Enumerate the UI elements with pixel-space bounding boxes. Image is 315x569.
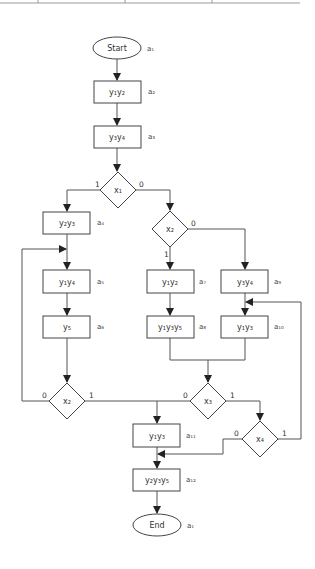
- end-node: End a₁: [133, 514, 194, 536]
- svg-text:0: 0: [191, 219, 196, 228]
- operator-box-a4: y₂y₃ a₄: [43, 212, 104, 234]
- operator-box-a2: y₁y₂ a₂: [94, 81, 155, 103]
- svg-text:a₁₂: a₁₂: [186, 476, 196, 484]
- svg-text:a₇: a₇: [199, 278, 206, 286]
- svg-text:1: 1: [230, 391, 235, 400]
- svg-text:a₁₁: a₁₁: [186, 432, 196, 440]
- operator-box-a11: y₁y₃ a₁₁: [133, 424, 196, 447]
- operator-box-a6: y₅ a₆: [43, 316, 104, 338]
- svg-text:1: 1: [164, 250, 169, 259]
- svg-text:y₂y₃: y₂y₃: [59, 219, 75, 228]
- operator-box-a12: y₂y₃y₅ a₁₂: [133, 469, 196, 491]
- svg-text:0: 0: [183, 391, 188, 400]
- svg-text:a₂: a₂: [148, 88, 155, 96]
- operator-box-a10: y₁y₃ a₁₀: [221, 316, 284, 338]
- operator-box-a9: y₃y₄ a₉: [221, 270, 281, 293]
- svg-text:a₅: a₅: [97, 278, 104, 286]
- svg-text:y₁y₄: y₁y₄: [59, 278, 75, 287]
- svg-text:y₁y₃: y₁y₃: [237, 323, 253, 332]
- svg-text:x₂: x₂: [63, 397, 71, 406]
- svg-text:x₂: x₂: [166, 225, 174, 234]
- svg-text:a₆: a₆: [97, 323, 104, 331]
- svg-text:End: End: [149, 521, 164, 530]
- svg-text:1: 1: [282, 429, 287, 438]
- svg-text:y₂y₃y₅: y₂y₃y₅: [145, 476, 169, 485]
- svg-text:1: 1: [95, 180, 100, 189]
- svg-text:0: 0: [234, 429, 239, 438]
- svg-text:0: 0: [139, 180, 144, 189]
- svg-text:1: 1: [89, 391, 94, 400]
- svg-text:y₅: y₅: [63, 323, 71, 332]
- flowchart-canvas: Start a₁ y₁y₂ a₂ y₃y₄ a₃ x₁ 1 0 y₂y₃ a₄ …: [0, 0, 315, 569]
- condition-x1: x₁ 1 0: [95, 172, 144, 208]
- svg-text:x₁: x₁: [114, 186, 122, 195]
- svg-text:y₃y₄: y₃y₄: [237, 278, 253, 287]
- svg-text:y₃y₄: y₃y₄: [109, 133, 125, 142]
- svg-text:y₁y₃: y₁y₃: [149, 432, 165, 441]
- svg-text:y₁y₂: y₁y₂: [162, 278, 178, 287]
- operator-box-a3: y₃y₄ a₃: [94, 126, 155, 148]
- operator-box-a8: y₁y₃y₅ a₈: [147, 316, 206, 338]
- svg-text:Start: Start: [107, 44, 127, 53]
- svg-text:y₁y₂: y₁y₂: [109, 88, 125, 97]
- svg-text:0: 0: [42, 391, 47, 400]
- svg-text:a₃: a₃: [148, 133, 155, 141]
- operator-box-a5: y₁y₄ a₅: [43, 270, 104, 293]
- svg-text:a₁: a₁: [187, 522, 194, 530]
- operator-box-a7: y₁y₂ a₇: [147, 270, 206, 293]
- table-fragment: [0, 0, 300, 3]
- svg-text:x₃: x₃: [204, 397, 212, 406]
- svg-text:y₁y₃y₅: y₁y₃y₅: [158, 323, 182, 332]
- svg-text:a₁₀: a₁₀: [274, 323, 284, 331]
- svg-text:x₄: x₄: [256, 435, 264, 444]
- start-node: Start a₁: [93, 37, 154, 59]
- condition-x2-right: x₂ 0 1: [152, 211, 196, 259]
- svg-text:a₉: a₉: [274, 278, 281, 286]
- svg-text:a₁: a₁: [147, 45, 154, 53]
- svg-text:a₈: a₈: [199, 323, 206, 331]
- svg-text:a₄: a₄: [97, 219, 104, 227]
